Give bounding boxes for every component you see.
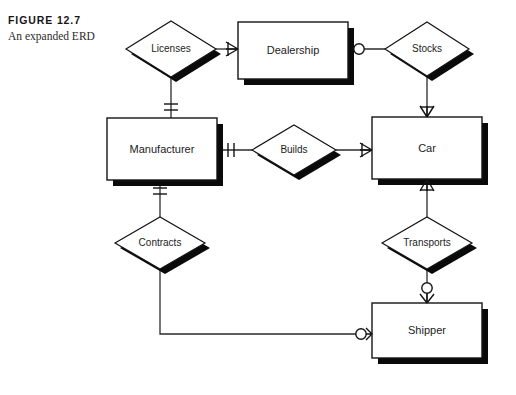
figure-root: FIGURE 12.7 An expanded ERD	[0, 0, 516, 395]
relationship-licenses-label: Licenses	[151, 43, 190, 54]
entity-manufacturer-label: Manufacturer	[130, 143, 195, 155]
marker-one-or-many-car-top-icon	[420, 106, 434, 117]
relationship-builds-label: Builds	[280, 144, 307, 155]
relationship-contracts[interactable]: Contracts	[115, 217, 210, 274]
connector-lines	[160, 49, 427, 334]
entity-manufacturer[interactable]: Manufacturer	[107, 118, 223, 186]
entity-shipper[interactable]: Shipper	[372, 303, 488, 364]
relationship-transports[interactable]: Transports	[382, 217, 477, 274]
relationship-stocks[interactable]: Stocks	[385, 22, 474, 81]
entity-car[interactable]: Car	[372, 117, 488, 185]
marker-zero-or-many-shipper-left-icon	[356, 328, 372, 340]
erd-canvas: Dealership Manufacturer Car Shipper Lice…	[0, 0, 516, 395]
relationship-builds[interactable]: Builds	[252, 125, 341, 180]
relationship-licenses[interactable]: Licenses	[126, 21, 221, 82]
relationship-stocks-label: Stocks	[412, 43, 442, 54]
entity-shipper-label: Shipper	[408, 324, 446, 336]
entity-dealership[interactable]: Dealership	[238, 22, 354, 85]
relationship-contracts-label: Contracts	[139, 237, 182, 248]
relationship-transports-label: Transports	[403, 237, 450, 248]
cardinality-markers	[153, 42, 434, 340]
marker-zero-or-one-stocks-left-icon	[354, 44, 364, 54]
marker-zero-or-many-shipper-top-icon	[420, 283, 434, 303]
marker-one-or-many-dealership-left-icon	[226, 42, 238, 56]
marker-one-or-many-car-left-icon	[360, 143, 372, 157]
connector-contracts-shipper	[160, 269, 356, 334]
entity-car-label: Car	[418, 142, 436, 154]
entity-dealership-label: Dealership	[267, 44, 320, 56]
